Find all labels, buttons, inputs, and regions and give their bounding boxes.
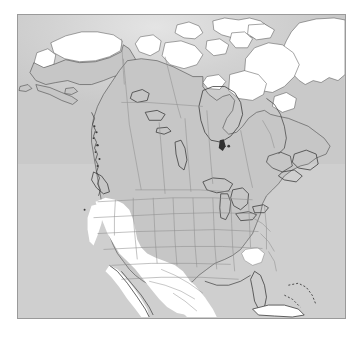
island-dot-9 [84, 209, 86, 211]
island-dot-7 [97, 165, 99, 167]
page-margin-top [0, 0, 364, 14]
page-margin-left [0, 0, 17, 339]
island-dot-5 [95, 151, 97, 153]
island-dot-4 [96, 144, 98, 146]
island-dot-2 [95, 131, 97, 133]
page-margin-right [346, 0, 364, 339]
map-page [0, 0, 364, 339]
island-dot-3 [93, 137, 95, 139]
page-margin-bottom [0, 319, 364, 339]
island-dot-1 [94, 125, 96, 127]
island-dot-6 [99, 158, 101, 160]
north-america-map [18, 15, 345, 318]
island-dot-8 [227, 145, 230, 148]
map-frame [17, 14, 346, 319]
